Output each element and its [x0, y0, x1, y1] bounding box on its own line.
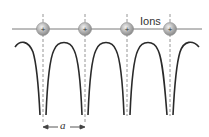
ion-1: + — [37, 23, 50, 36]
ion-4: + — [164, 23, 177, 36]
ion-position-guides — [43, 14, 170, 122]
svg-text:+: + — [168, 25, 173, 34]
ions-label: Ions — [140, 15, 161, 27]
svg-text:+: + — [41, 25, 46, 34]
ion-3: + — [121, 23, 134, 36]
svg-text:+: + — [83, 25, 88, 34]
potential-diagram: + + + + — [0, 0, 209, 137]
ion-2: + — [79, 23, 92, 36]
lattice-constant-label: a — [60, 119, 66, 131]
svg-text:+: + — [125, 25, 130, 34]
